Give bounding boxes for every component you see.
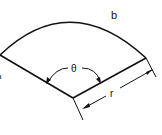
dimension-arrow-left xyxy=(82,103,90,109)
label-angle-theta: θ xyxy=(71,63,77,74)
sector-diagram: b θ r a xyxy=(0,0,162,135)
label-point-a: a xyxy=(0,72,2,81)
extension-line-center xyxy=(73,98,83,120)
arc-b xyxy=(0,22,146,58)
radius-left xyxy=(0,55,73,98)
dimension-arrow-right xyxy=(146,69,153,75)
angle-arrow-right xyxy=(96,77,101,84)
label-radius-r: r xyxy=(110,88,114,99)
label-arc-b: b xyxy=(111,9,117,21)
